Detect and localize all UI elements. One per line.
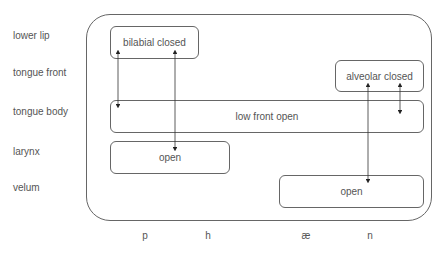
segment-label-ae: æ [302, 230, 311, 242]
segment-label-p: p [142, 230, 148, 242]
coordination-arrows [0, 0, 444, 256]
segment-label-h: h [205, 230, 211, 242]
segment-label-n: n [367, 230, 373, 242]
